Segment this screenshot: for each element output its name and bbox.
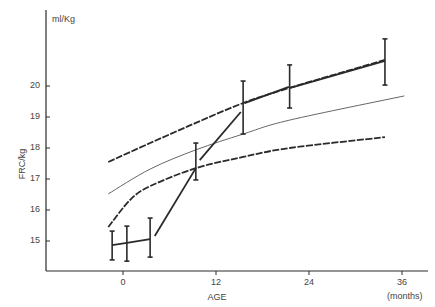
- y-tick-label: 20: [20, 80, 40, 90]
- y-unit-label: ml/Kg: [52, 14, 75, 24]
- x-axis-title: AGE: [202, 292, 232, 302]
- upper-limit-curve: [108, 60, 385, 162]
- data-line-segment: [112, 239, 150, 245]
- lower-limit-curve: [108, 137, 385, 227]
- x-tick-label: 24: [294, 277, 324, 287]
- data-line-segment: [290, 61, 385, 88]
- y-tick-label: 19: [20, 111, 40, 121]
- data-line-segment: [245, 87, 289, 103]
- x-tick-label: 12: [201, 277, 231, 287]
- y-tick-label: 16: [20, 204, 40, 214]
- x-tick-label: 36: [387, 277, 417, 287]
- y-tick-label: 15: [20, 235, 40, 245]
- data-line-segment: [155, 168, 196, 236]
- x-tick-label: 0: [108, 277, 138, 287]
- measured-series: [110, 39, 388, 261]
- axes: [46, 10, 428, 275]
- x-unit-label: (months): [387, 291, 423, 301]
- y-axis-title: FRC/kg: [17, 144, 27, 184]
- frc-chart: [0, 0, 435, 307]
- reference-curves: [108, 60, 404, 227]
- mean-reference-curve: [108, 96, 404, 194]
